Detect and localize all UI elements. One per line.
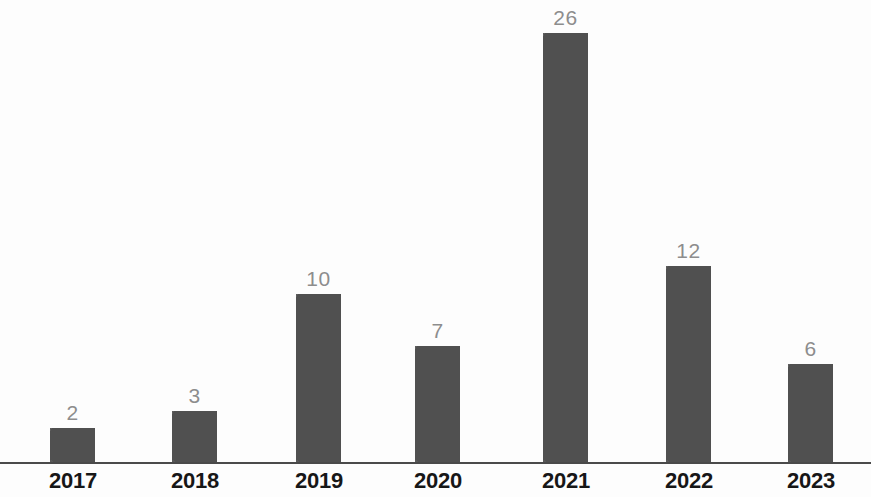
bar[interactable] <box>788 364 833 463</box>
x-axis-line <box>0 462 871 464</box>
bar-value-label: 12 <box>666 240 711 261</box>
bar-value-label: 2 <box>50 402 95 423</box>
bar[interactable] <box>666 266 711 463</box>
bar[interactable] <box>415 346 460 463</box>
x-axis-tick-2023: 2023 <box>751 468 871 494</box>
x-axis-labels: 2017 2018 2019 2020 2021 2022 2023 <box>0 466 871 497</box>
bar-value-label: 26 <box>543 7 588 28</box>
bar[interactable] <box>50 428 95 463</box>
x-axis-tick-2017: 2017 <box>13 468 133 494</box>
bar-value-label: 7 <box>415 320 460 341</box>
bar-chart: 2 3 10 7 26 12 6 2017 20 <box>0 0 871 497</box>
bar[interactable] <box>296 294 341 463</box>
bar[interactable] <box>172 411 217 463</box>
x-axis-tick-2022: 2022 <box>629 468 749 494</box>
bar-value-label: 3 <box>172 385 217 406</box>
bar-value-label: 6 <box>788 338 833 359</box>
x-axis-tick-2018: 2018 <box>135 468 255 494</box>
x-axis-tick-2020: 2020 <box>378 468 498 494</box>
x-axis-tick-2021: 2021 <box>506 468 626 494</box>
x-axis-tick-2019: 2019 <box>259 468 379 494</box>
bar-value-label: 10 <box>296 268 341 289</box>
bar[interactable] <box>543 33 588 463</box>
plot-area: 2 3 10 7 26 12 6 <box>0 0 871 463</box>
